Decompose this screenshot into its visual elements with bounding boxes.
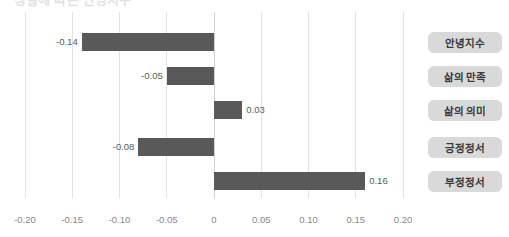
gridline — [355, 12, 356, 198]
gridline — [25, 12, 26, 198]
legend-item-2[interactable]: 삶의 만족 — [428, 66, 502, 87]
x-axis-tick-label: -0.10 — [109, 214, 131, 225]
bar — [214, 101, 242, 119]
x-axis-tick-labels: -0.20-0.15-0.10-0.0500.050.100.150.20 — [0, 214, 420, 234]
bar — [214, 172, 365, 190]
bar — [82, 33, 214, 51]
x-axis-tick-label: 0.20 — [394, 214, 413, 225]
legend: 안녕지수삶의 만족삶의 의미긍정정서부정정서 — [428, 12, 506, 212]
legend-item-3[interactable]: 삶의 의미 — [428, 100, 502, 121]
x-axis-tick-label: 0.10 — [299, 214, 318, 225]
page-title: 성별에 따른 안녕지수 — [14, 0, 131, 7]
x-axis-tick-label: 0.05 — [252, 214, 271, 225]
gridline — [403, 12, 404, 198]
legend-item-5[interactable]: 부정정서 — [428, 171, 502, 192]
x-axis-tick-label: -0.15 — [61, 214, 83, 225]
legend-item-1[interactable]: 안녕지수 — [428, 32, 502, 53]
bar — [138, 138, 214, 156]
bar-value-label: 0.03 — [246, 101, 265, 119]
bar — [167, 67, 214, 85]
x-axis-tick-label: -0.05 — [156, 214, 178, 225]
legend-item-4[interactable]: 긍정정서 — [428, 137, 502, 158]
chart-title-strip: 성별에 따른 안녕지수 — [0, 0, 509, 7]
x-axis-tick-label: -0.20 — [14, 214, 36, 225]
bar-value-label: -0.08 — [106, 138, 134, 156]
gridline — [308, 12, 309, 198]
bar-value-label: -0.05 — [135, 67, 163, 85]
x-axis-tick-label: 0.15 — [347, 214, 366, 225]
bar-value-label: -0.14 — [50, 33, 78, 51]
bar-value-label: 0.16 — [369, 172, 388, 190]
x-axis-tick-label: 0 — [211, 214, 216, 225]
chart-plot-area: -0.14-0.050.03-0.080.16 — [0, 12, 420, 212]
